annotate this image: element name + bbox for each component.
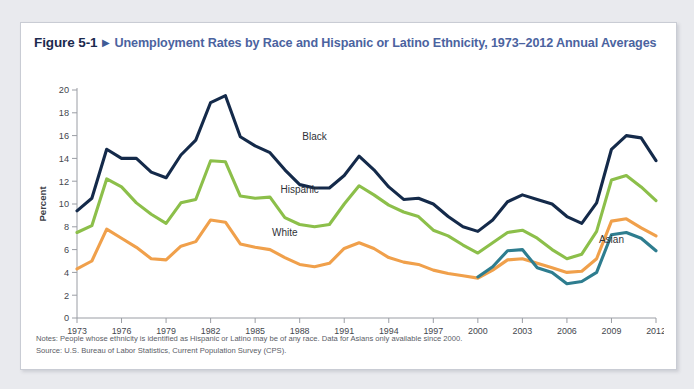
y-axis-label-group: Percent xyxy=(37,186,48,222)
chart-plot-area: Percent 02468101214161820 19731976197919… xyxy=(34,78,664,343)
y-axis-title: Percent xyxy=(37,186,48,222)
y-tick-label: 2 xyxy=(64,291,69,301)
y-tick-label: 12 xyxy=(59,177,69,187)
figure-number: Figure 5-1 xyxy=(34,35,98,50)
series-label-white: White xyxy=(272,227,298,238)
figure-title-block: Figure 5-1▶Unemployment Rates by Race an… xyxy=(34,33,662,52)
y-tick-label: 16 xyxy=(59,131,69,141)
y-tick-label: 0 xyxy=(64,313,69,323)
series-line-black xyxy=(77,96,656,232)
y-tick-label: 8 xyxy=(64,222,69,232)
notes-block: Notes: People whose ethnicity is identif… xyxy=(36,333,664,358)
y-tick-label: 14 xyxy=(59,154,69,164)
series-line-white xyxy=(77,219,656,278)
notes-text: Notes: People whose ethnicity is identif… xyxy=(36,333,664,345)
series-label-hispanic: Hispanic xyxy=(281,184,319,195)
y-tick-label: 18 xyxy=(59,108,69,118)
y-tick-label: 20 xyxy=(59,85,69,95)
y-axis-ticks: 02468101214161820 xyxy=(59,85,77,323)
data-series-group xyxy=(77,96,656,284)
series-label-black: Black xyxy=(302,131,327,142)
y-tick-label: 6 xyxy=(64,245,69,255)
figure-card: Figure 5-1▶Unemployment Rates by Race an… xyxy=(20,22,677,370)
y-tick-label: 4 xyxy=(64,268,69,278)
source-text: Source: U.S. Bureau of Labor Statistics,… xyxy=(36,345,664,357)
triangle-right-icon: ▶ xyxy=(102,34,110,51)
page-title: Unemployment Rates by Race and Hispanic … xyxy=(115,36,657,50)
y-tick-label: 10 xyxy=(59,199,69,209)
series-label-asian: Asian xyxy=(599,234,624,245)
line-chart-svg: Percent 02468101214161820 19731976197919… xyxy=(34,78,664,343)
